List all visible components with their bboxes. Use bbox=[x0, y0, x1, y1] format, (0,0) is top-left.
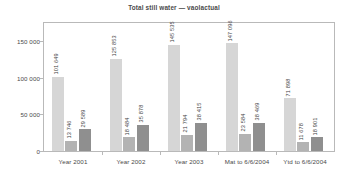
bar-value-label: 101 649 bbox=[54, 53, 60, 74]
bar bbox=[284, 98, 296, 151]
bar bbox=[297, 142, 309, 151]
bar bbox=[311, 137, 323, 151]
x-axis-tick-mark bbox=[160, 152, 161, 155]
bar bbox=[123, 137, 135, 151]
y-axis-tick-mark bbox=[40, 114, 43, 115]
bar-value-label: 145 535 bbox=[170, 21, 176, 42]
x-axis-tick-mark bbox=[276, 152, 277, 155]
bar-value-label: 11 678 bbox=[300, 123, 306, 141]
y-axis-tick-mark bbox=[40, 41, 43, 42]
bar-value-label: 21 794 bbox=[184, 115, 190, 133]
y-axis-tick-label: 100 000 bbox=[17, 74, 40, 81]
bar bbox=[137, 125, 149, 151]
x-axis-category-label: Ytd to 6/6/2004 bbox=[283, 158, 326, 165]
bar-value-label: 38 469 bbox=[255, 103, 261, 121]
y-axis-tick-mark bbox=[40, 151, 43, 152]
x-axis-tick-mark bbox=[102, 152, 103, 155]
bar-value-label: 125 853 bbox=[112, 36, 118, 57]
bar-value-label: 18 901 bbox=[313, 117, 319, 135]
bar bbox=[79, 129, 91, 151]
x-axis-category-label: Year 2002 bbox=[117, 158, 146, 165]
bar-value-label: 35 878 bbox=[139, 105, 145, 123]
y-axis-tick-label: 150 000 bbox=[17, 38, 40, 45]
bar-value-label: 38 415 bbox=[197, 103, 203, 121]
bar bbox=[253, 123, 265, 151]
bar bbox=[168, 45, 180, 151]
bar-value-label: 23 584 bbox=[242, 114, 248, 132]
y-axis-tick-mark bbox=[40, 78, 43, 79]
y-axis-tick-label: 50 000 bbox=[20, 111, 40, 118]
chart-container: Total still water — vaolactual 050 00010… bbox=[0, 0, 348, 180]
x-axis-category-label: Mat to 6/6/2004 bbox=[225, 158, 270, 165]
chart-title: Total still water — vaolactual bbox=[0, 4, 348, 11]
plot-area: 101 64913 74629 589125 85318 48435 87814… bbox=[44, 23, 334, 151]
bar bbox=[110, 59, 122, 151]
x-axis-category-label: Year 2001 bbox=[59, 158, 88, 165]
bar-value-label: 29 589 bbox=[81, 109, 87, 127]
bar-value-label: 13 746 bbox=[68, 121, 74, 139]
bar-value-label: 18 484 bbox=[126, 117, 132, 135]
x-axis-tick-mark bbox=[218, 152, 219, 155]
bar bbox=[65, 141, 77, 151]
bar bbox=[52, 77, 64, 151]
x-axis-category-label: Year 2003 bbox=[175, 158, 204, 165]
bar bbox=[181, 135, 193, 151]
bar bbox=[239, 134, 251, 151]
bar bbox=[195, 123, 207, 151]
bar-value-label: 147 096 bbox=[228, 20, 234, 41]
bar-value-label: 71 898 bbox=[286, 78, 292, 96]
bar bbox=[226, 43, 238, 151]
